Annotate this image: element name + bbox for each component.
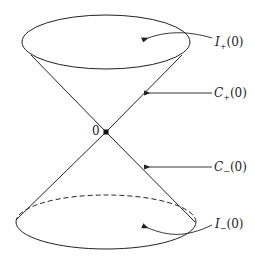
arrow-past-interior bbox=[148, 225, 212, 234]
label-future-interior: I+(0) bbox=[214, 35, 243, 51]
past-ellipse-back-dashed bbox=[16, 195, 196, 222]
past-cone-left-edge bbox=[16, 132, 106, 220]
arrow-future-interior bbox=[148, 33, 212, 38]
label-future-cone: C+(0) bbox=[214, 86, 247, 102]
apex-point bbox=[104, 130, 109, 135]
past-cone-right-edge bbox=[106, 132, 195, 222]
future-cone bbox=[22, 15, 190, 132]
past-cone bbox=[16, 132, 196, 249]
apex-label: 0 bbox=[92, 124, 100, 138]
label-past-interior: I−(0) bbox=[214, 217, 243, 233]
past-ellipse-front bbox=[16, 222, 196, 249]
light-cone-diagram: 0 I+(0) C+(0) C−(0) I−(0) bbox=[0, 0, 255, 263]
label-past-cone: C−(0) bbox=[214, 160, 247, 176]
future-ellipse bbox=[22, 15, 190, 69]
